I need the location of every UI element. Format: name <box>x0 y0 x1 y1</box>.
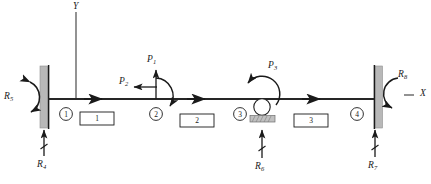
reaction-R7-letter: R <box>368 160 374 170</box>
reaction-label-R4: R4 <box>37 160 46 170</box>
reaction-R8-moment-arc <box>384 78 398 108</box>
reaction-R6-letter: R <box>255 161 261 171</box>
load-label-P3: P3 <box>268 61 277 71</box>
node-label-4: 4 <box>351 108 364 121</box>
x-axis-label: X <box>420 89 426 99</box>
reaction-R4-sub: 4 <box>43 163 46 170</box>
load-label-P1: P1 <box>147 55 156 65</box>
reaction-R5-sub: 5 <box>10 95 13 102</box>
node-label-3: 3 <box>234 108 247 121</box>
roller-support <box>250 99 275 122</box>
load-P2-letter: P <box>119 76 125 86</box>
beam-diagram: Y X 1 2 3 4 1 2 3 P1 P2 P3 R4 R5 R6 R7 R… <box>0 0 431 184</box>
element-label-3: 3 <box>294 115 328 126</box>
element-label-2: 2 <box>180 115 214 126</box>
reaction-R8-letter: R <box>398 69 404 79</box>
load-label-P2: P2 <box>119 77 128 87</box>
fixed-wall-right <box>374 65 382 129</box>
reaction-R7-sub: 7 <box>374 164 377 171</box>
load-P1-letter: P <box>147 54 153 64</box>
reaction-label-R7: R7 <box>368 161 377 171</box>
reaction-label-R6: R6 <box>255 162 264 172</box>
reaction-R6-arrow <box>259 130 266 158</box>
y-axis-label: Y <box>73 2 78 12</box>
reaction-R6-sub: 6 <box>261 165 264 172</box>
load-P3-sub: 3 <box>274 64 277 71</box>
node-label-1: 1 <box>60 108 73 121</box>
node-label-2: 2 <box>150 108 163 121</box>
reaction-R5-letter: R <box>4 91 10 101</box>
reaction-R7-arrow <box>372 130 379 157</box>
reaction-R8-sub: 8 <box>404 73 407 80</box>
diagram-canvas <box>0 0 431 184</box>
reaction-R4-arrow <box>41 130 48 156</box>
moment-node-2-arc <box>156 78 173 106</box>
load-P1-sub: 1 <box>153 58 156 65</box>
reaction-R5-moment-arc <box>30 82 40 112</box>
fixed-wall-left <box>40 65 49 129</box>
load-P2-sub: 2 <box>125 80 128 87</box>
reaction-R4-letter: R <box>37 159 43 169</box>
load-P3-letter: P <box>268 60 274 70</box>
element-label-1: 1 <box>80 113 114 124</box>
reaction-label-R8: R8 <box>398 70 407 80</box>
reaction-label-R5: R5 <box>4 92 13 102</box>
